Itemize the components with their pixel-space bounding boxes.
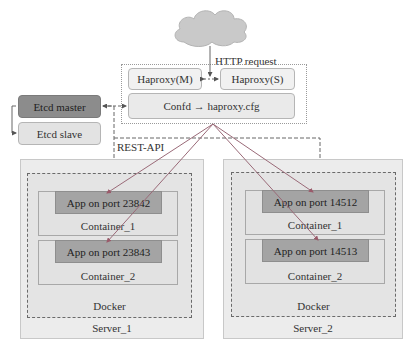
server-2-label: Server_2 (223, 322, 403, 334)
docker-2-label: Docker (231, 300, 396, 312)
etcd-slave-box: Etcd slave (18, 122, 101, 145)
rest-api-label: REST-API (117, 141, 164, 153)
app-port-23842: App on port 23842 (55, 191, 162, 214)
confd-box: Confd → haproxy.cfg (128, 93, 295, 119)
container-2-2-label: Container_2 (245, 270, 385, 282)
app-port-14513: App on port 14513 (262, 239, 369, 262)
etcd-master-box: Etcd master (18, 95, 101, 118)
server-1-label: Server_1 (20, 322, 204, 334)
container-2-1-label: Container_1 (245, 219, 385, 231)
haproxy-slave-box: Haproxy(S) (220, 68, 295, 90)
docker-1-label: Docker (27, 300, 192, 312)
cloud-icon (170, 6, 252, 48)
haproxy-master-box: Haproxy(M) (128, 68, 202, 90)
app-port-23843: App on port 23843 (55, 240, 162, 263)
container-1-1-label: Container_1 (38, 220, 178, 232)
app-port-14512: App on port 14512 (262, 190, 369, 213)
container-1-2-label: Container_2 (38, 270, 178, 282)
